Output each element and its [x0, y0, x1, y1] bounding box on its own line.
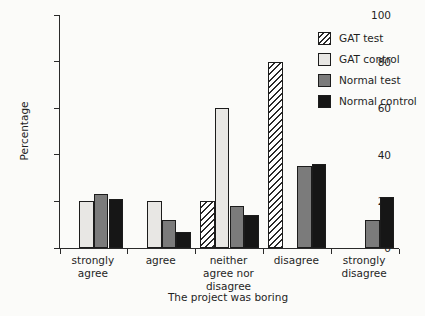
bar-normal-test-cat2 — [230, 206, 245, 248]
bar-gat-control-cat2 — [215, 108, 230, 248]
category-label: strongly agree — [59, 254, 127, 280]
legend-row: GAT control — [318, 53, 417, 66]
bar-normal-test-cat1 — [162, 220, 177, 248]
x-tick-mark — [399, 249, 400, 254]
legend: GAT testGAT controlNormal testNormal con… — [318, 32, 417, 116]
legend-label: GAT test — [339, 32, 383, 45]
y-tick-label: 100 — [351, 10, 391, 20]
legend-label: GAT control — [339, 53, 400, 66]
bar-normal-test-cat0 — [94, 194, 109, 248]
category-label: disagree — [262, 254, 330, 267]
bar-normal-control-cat3 — [312, 164, 327, 248]
legend-swatch-normal-control — [318, 95, 331, 108]
y-tick-mark — [54, 248, 59, 249]
legend-swatch-gat-control — [318, 53, 331, 66]
legend-row: Normal control — [318, 95, 417, 108]
bar-normal-test-cat4 — [365, 220, 380, 248]
bar-chart-figure: Percentage 020406080100 strongly agreeag… — [0, 0, 425, 316]
category-label: neither agree nor disagree — [195, 254, 263, 293]
bar-normal-control-cat1 — [176, 232, 191, 248]
y-tick-mark — [54, 154, 59, 155]
y-tick-mark — [54, 108, 59, 109]
y-tick-label: 40 — [351, 150, 391, 160]
bar-normal-control-cat2 — [244, 215, 259, 248]
category-label: strongly disagree — [330, 254, 398, 280]
bar-normal-control-cat4 — [380, 197, 395, 248]
bar-normal-control-cat0 — [109, 199, 124, 248]
y-tick-mark — [54, 61, 59, 62]
bar-normal-test-cat3 — [297, 166, 312, 248]
bar-gat-test-cat2 — [200, 201, 215, 248]
bar-gat-control-cat0 — [79, 201, 94, 248]
category-label: agree — [127, 254, 195, 267]
bar-gat-test-cat3 — [268, 62, 283, 248]
legend-row: GAT test — [318, 32, 417, 45]
y-axis-title: Percentage — [18, 101, 30, 160]
legend-label: Normal test — [339, 74, 401, 87]
legend-swatch-normal-test — [318, 74, 331, 87]
bar-gat-control-cat1 — [147, 201, 162, 248]
legend-row: Normal test — [318, 74, 417, 87]
legend-label: Normal control — [339, 95, 417, 108]
y-tick-mark — [54, 15, 59, 16]
y-tick-mark — [54, 201, 59, 202]
x-axis-title: The project was boring — [168, 291, 288, 303]
legend-swatch-gat-test — [318, 32, 331, 45]
